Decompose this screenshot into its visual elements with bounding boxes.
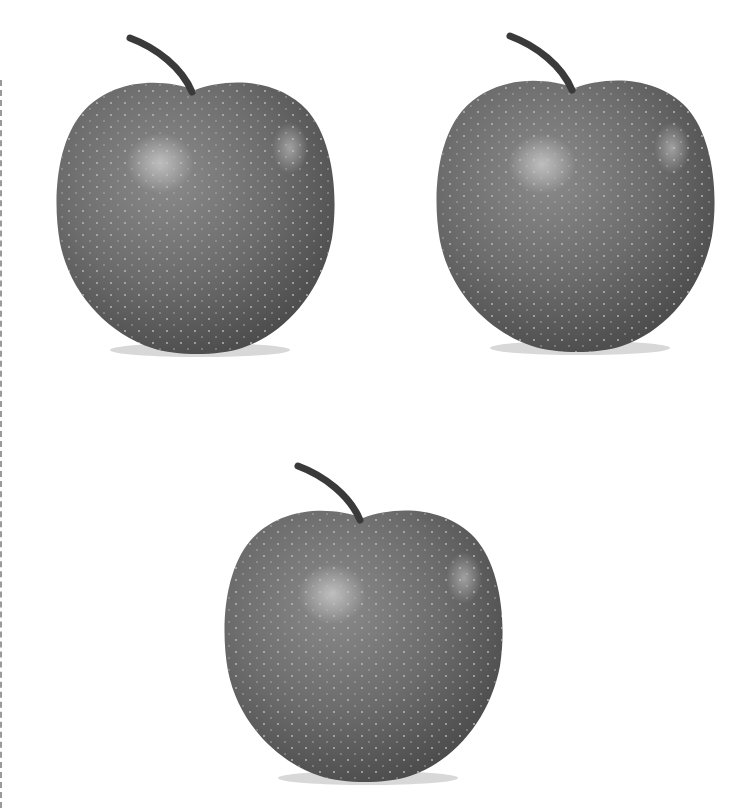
- apple-image: [52, 28, 338, 358]
- apple-bottom-center: [220, 456, 506, 786]
- dashed-left-border: [0, 80, 2, 808]
- apple-top-right: [432, 26, 718, 356]
- apple-top-left: [52, 28, 338, 358]
- apple-image: [220, 456, 506, 786]
- apple-image: [432, 26, 718, 356]
